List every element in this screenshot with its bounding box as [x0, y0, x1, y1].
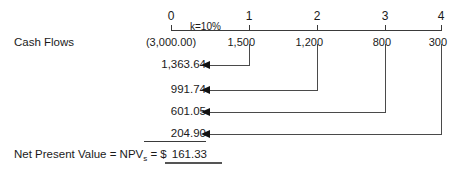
connector-hline-4 [210, 134, 442, 135]
connector-vline-2 [317, 44, 318, 91]
arrowhead-4-icon [201, 130, 210, 138]
axis-tick-2 [317, 25, 318, 31]
connector-hline-1 [210, 65, 250, 66]
arrowhead-1-icon [201, 61, 210, 69]
cash-flows-row-label: Cash Flows [14, 36, 74, 48]
period-label-0: 0 [159, 10, 183, 22]
period-label-2: 2 [305, 10, 329, 22]
present-value-row-3: 601.05 [136, 105, 206, 117]
axis-tick-4 [441, 25, 442, 31]
present-value-row-4: 204.90 [136, 127, 206, 139]
present-value-sum-rule [144, 141, 206, 142]
connector-vline-4 [441, 44, 442, 135]
npv-currency-symbol: $ [160, 148, 166, 160]
discount-rate-label: k=10% [190, 21, 221, 33]
cash-flow-period-0: (3,000.00) [141, 36, 201, 48]
arrowhead-3-icon [201, 108, 210, 116]
period-label-1: 1 [237, 10, 261, 22]
axis-tick-1 [249, 25, 250, 31]
connector-vline-1 [249, 44, 250, 66]
npv-value-underline [165, 162, 222, 164]
connector-hline-2 [210, 90, 318, 91]
axis-tick-3 [385, 25, 386, 31]
connector-vline-3 [385, 44, 386, 113]
npv-result-line: Net Present Value = NPVs = $161.33 [14, 148, 207, 163]
period-label-4: 4 [429, 10, 453, 22]
timeline-axis [171, 30, 442, 31]
npv-label: Net Present Value = NPV [14, 148, 143, 160]
arrowhead-2-icon [201, 86, 210, 94]
npv-timeline-diagram: 0 1 2 3 4 k=10% Cash Flows (3,000.00) 1,… [0, 0, 463, 169]
period-label-3: 3 [373, 10, 397, 22]
present-value-row-1: 1,363.64 [136, 58, 206, 70]
axis-tick-0 [171, 25, 172, 31]
npv-equals-sign: = [147, 148, 160, 160]
npv-value: 161.33 [172, 148, 207, 160]
connector-hline-3 [210, 112, 386, 113]
present-value-row-2: 991.74 [136, 83, 206, 95]
